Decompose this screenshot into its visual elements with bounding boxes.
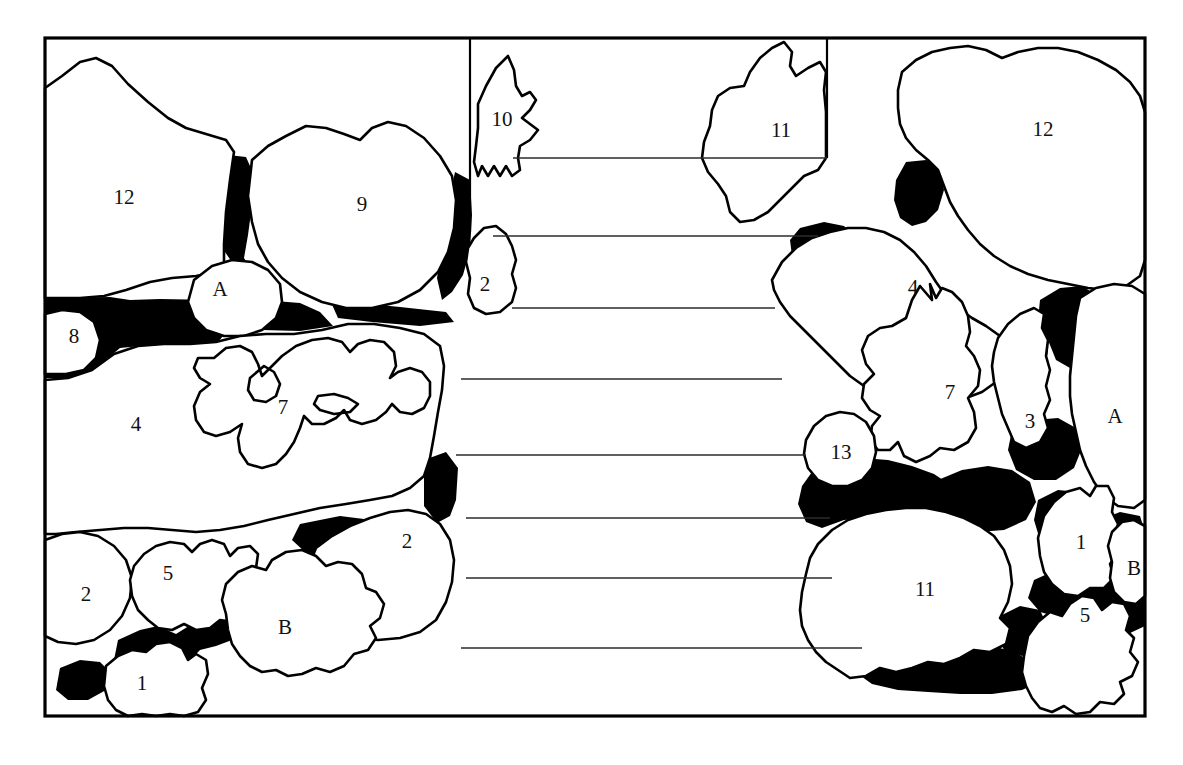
region-label-l-2a: 2 xyxy=(480,272,491,296)
region-label-r-11a: 11 xyxy=(771,118,791,142)
region-label-l-8: 8 xyxy=(69,324,80,348)
region-label-l-12: 12 xyxy=(114,185,135,209)
region-label-l-7: 7 xyxy=(278,395,289,419)
microstructure-diagram: 129A8472225B110 1112473A131B115 xyxy=(0,0,1183,765)
figure-root: 129A8472225B110 1112473A131B115 xyxy=(0,0,1183,765)
region-label-l-9: 9 xyxy=(357,192,368,216)
region-label-l-B: B xyxy=(278,615,292,639)
region-label-r-13: 13 xyxy=(831,440,852,464)
region-label-l-5: 5 xyxy=(163,561,174,585)
grain-2-left-upper xyxy=(466,226,516,314)
region-label-l-A: A xyxy=(212,277,228,301)
region-label-l-10: 10 xyxy=(492,107,513,131)
region-label-r-12: 12 xyxy=(1033,117,1054,141)
region-label-l-1: 1 xyxy=(137,671,148,695)
region-label-l-4: 4 xyxy=(131,412,142,436)
region-label-r-5: 5 xyxy=(1080,603,1091,627)
region-label-r-1: 1 xyxy=(1076,530,1087,554)
region-label-r-B: B xyxy=(1127,556,1141,580)
region-label-r-3: 3 xyxy=(1025,409,1036,433)
region-label-r-4: 4 xyxy=(908,275,919,299)
region-label-r-A: A xyxy=(1107,404,1123,428)
region-label-l-2b: 2 xyxy=(402,529,413,553)
region-label-r-11b: 11 xyxy=(915,577,935,601)
region-label-r-7: 7 xyxy=(945,380,956,404)
region-label-l-2c: 2 xyxy=(81,582,92,606)
